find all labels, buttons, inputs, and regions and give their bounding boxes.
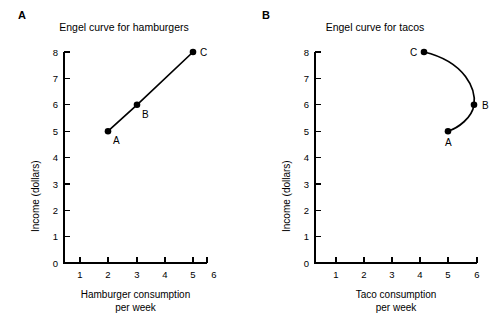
- y-tick-label: 2: [53, 205, 58, 216]
- panel-b-point-label-c: C: [410, 47, 417, 58]
- y-tick-label: 5: [53, 126, 58, 137]
- y-tick-label: 5: [304, 126, 309, 137]
- y-tick-label: 4: [304, 152, 309, 163]
- x-tick-label: 5: [445, 269, 450, 280]
- panel-a-x-axis-title-line2: per week: [115, 302, 156, 313]
- panel-a-data-point-b: [134, 102, 141, 109]
- panel-a-point-label-b: B: [142, 109, 149, 120]
- panel-b-x-axis-title-line1: Taco consumption: [356, 289, 437, 300]
- panel-b-x-tick-labels: 1 2 3 4 5 6: [333, 269, 479, 280]
- panel-a-x-axis-title: Hamburger consumption per week: [64, 288, 207, 314]
- panel-a-x-ticks: [80, 257, 207, 263]
- panel-b-plot: 8 7 6 5 4 3 2 1 0 1 2: [251, 0, 503, 333]
- y-tick-label: 8: [304, 47, 309, 58]
- panel-a-data-point-c: [190, 49, 197, 56]
- x-tick-label: 1: [333, 269, 338, 280]
- y-tick-label: 2: [304, 205, 309, 216]
- panel-a-point-label-a: A: [113, 135, 120, 146]
- x-tick-label: 6: [211, 269, 216, 280]
- panel-b-y-ticks: [315, 52, 321, 237]
- panel-a-engel-curve: [108, 52, 193, 131]
- panel-a-y-tick-labels: 8 7 6 5 4 3 2 1 0: [53, 47, 58, 269]
- panel-b-data-point-b: [471, 102, 478, 109]
- panel-b-x-axis-title: Taco consumption per week: [315, 288, 477, 314]
- y-tick-label: 8: [53, 47, 58, 58]
- panel-b-point-label-a: A: [445, 137, 452, 148]
- panel-a-plot: 8 7 6 5 4 3 2 1 0 1 2: [0, 0, 251, 333]
- x-tick-label: 6: [474, 269, 479, 280]
- y-tick-label: 7: [53, 73, 58, 84]
- y-tick-label: 0: [304, 258, 309, 269]
- x-tick-label: 2: [105, 269, 110, 280]
- x-tick-label: 1: [77, 269, 82, 280]
- panel-b-y-tick-labels: 8 7 6 5 4 3 2 1 0: [304, 47, 309, 269]
- x-tick-label: 2: [361, 269, 366, 280]
- x-tick-label: 3: [134, 269, 139, 280]
- y-tick-label: 3: [53, 179, 58, 190]
- panel-b-data-point-a: [445, 128, 452, 135]
- y-tick-label: 1: [53, 231, 58, 242]
- y-tick-label: 3: [304, 179, 309, 190]
- y-tick-label: 6: [53, 99, 58, 110]
- engel-curves-figure: A Engel curve for hamburgers Income (dol…: [0, 0, 503, 333]
- panel-a-point-label-c: C: [200, 47, 207, 58]
- y-tick-label: 7: [304, 73, 309, 84]
- y-tick-label: 6: [304, 99, 309, 110]
- x-tick-label: 3: [389, 269, 394, 280]
- panel-b-data-point-c: [421, 49, 428, 56]
- x-tick-label: 4: [417, 269, 422, 280]
- y-tick-label: 4: [53, 152, 58, 163]
- panel-b-x-axis-title-line2: per week: [376, 302, 417, 313]
- y-tick-label: 1: [304, 231, 309, 242]
- panel-b-engel-curve: [424, 52, 474, 131]
- panel-a: A Engel curve for hamburgers Income (dol…: [0, 0, 251, 333]
- panel-b-x-ticks: [336, 257, 477, 263]
- panel-a-x-axis-title-line1: Hamburger consumption: [81, 289, 191, 300]
- panel-b-point-label-b: B: [482, 100, 489, 111]
- panel-a-y-ticks: [64, 52, 70, 237]
- x-tick-label: 4: [162, 269, 167, 280]
- panel-a-data-point-a: [105, 128, 112, 135]
- x-tick-label: 5: [190, 269, 195, 280]
- panel-b: B Engel curve for tacos Income (dollars)…: [251, 0, 502, 333]
- panel-a-x-tick-labels: 1 2 3 4 5 6: [77, 269, 216, 280]
- y-tick-label: 0: [53, 258, 58, 269]
